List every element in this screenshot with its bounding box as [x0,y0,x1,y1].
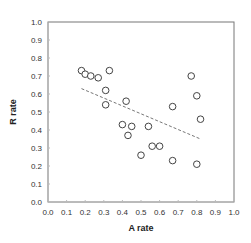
data-point-marker [119,121,126,128]
data-point-marker [197,116,204,123]
x-axis-ticks: 0.00.10.20.30.40.50.60.70.80.91.0 [42,200,240,217]
y-tick-label: 1.0 [31,18,43,27]
y-axis-ticks: 0.00.10.20.30.40.50.60.70.80.91.0 [31,18,50,207]
y-tick-label: 0.8 [31,54,43,63]
y-tick-label: 0.6 [31,90,43,99]
data-point-marker [194,93,201,100]
y-tick-label: 0.7 [31,72,43,81]
x-tick-label: 0.1 [61,208,73,217]
x-tick-label: 0.5 [135,208,147,217]
y-tick-label: 0.1 [31,180,43,189]
x-tick-label: 0.4 [117,208,129,217]
data-point-marker [95,75,102,82]
y-tick-label: 0.9 [31,36,43,45]
y-tick-label: 0.3 [31,144,43,153]
data-point-marker [169,103,176,110]
x-tick-label: 1.0 [228,208,240,217]
x-tick-label: 0.0 [42,208,54,217]
y-axis-label: R rate [8,99,18,125]
data-point-marker [102,102,109,109]
data-point-marker [87,73,94,80]
data-point-marker [102,87,109,94]
data-point-marker [149,143,156,150]
plot-area [48,22,234,202]
data-point-marker [125,132,132,139]
x-tick-label: 0.9 [210,208,222,217]
data-point-marker [138,152,145,159]
x-tick-label: 0.2 [80,208,92,217]
x-tick-label: 0.8 [191,208,203,217]
data-point-marker [194,161,201,168]
y-tick-label: 0.4 [31,126,43,135]
data-point-marker [169,157,176,164]
x-tick-label: 0.3 [98,208,110,217]
data-point-marker [123,98,130,105]
y-tick-label: 0.2 [31,162,43,171]
x-tick-label: 0.7 [173,208,185,217]
scatter-chart: 0.00.10.20.30.40.50.60.70.80.91.0 0.00.1… [0,0,251,243]
data-point-marker [156,143,163,150]
data-point-marker [145,123,152,130]
x-axis-label: A rate [128,223,153,233]
y-tick-label: 0.0 [31,198,43,207]
data-point-marker [106,67,113,74]
data-point-marker [188,73,195,80]
y-tick-label: 0.5 [31,108,43,117]
data-point-marker [128,123,135,130]
x-tick-label: 0.6 [154,208,166,217]
